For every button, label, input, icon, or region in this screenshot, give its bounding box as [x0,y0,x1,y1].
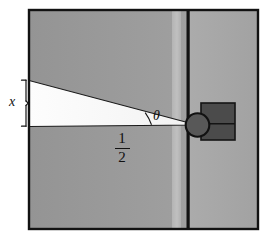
pivot-circle [186,113,210,137]
fraction-denominator: 2 [111,150,133,166]
label-x: x [9,95,15,109]
geometry-diagram [0,0,265,236]
x-measure-brace [22,80,29,126]
fraction-numerator: 1 [111,131,133,147]
scene-panel [29,10,258,229]
label-distance-fraction: 1 2 [111,131,133,166]
label-theta: θ [153,109,160,123]
figure-root: x θ 1 2 [0,0,265,236]
